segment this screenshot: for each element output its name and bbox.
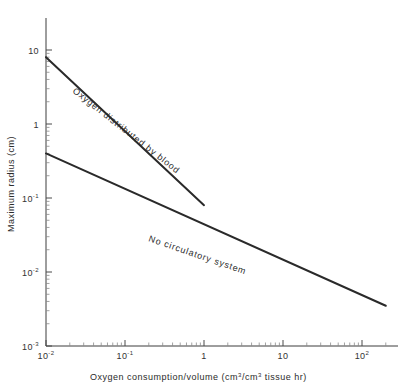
x-tick-label-0: 10-2: [38, 350, 55, 361]
series-label-oxygen-distributed-by-blood: Oxygen distributed by blood: [71, 86, 182, 176]
y-tick-label-1: 1: [34, 120, 39, 130]
series-label-no-circulatory-system: No circulatory system: [147, 233, 247, 276]
y-tick-label-4: 10-3: [22, 341, 39, 352]
x-tick-label-4: 102: [355, 350, 370, 361]
y-tick-label-0: 10: [28, 46, 39, 56]
series-line-1: [46, 153, 386, 305]
x-axis-ticks: [46, 340, 386, 346]
data-series-lines: [46, 57, 386, 306]
x-axis-title-part1: Oxygen consumption/volume (cm: [90, 372, 238, 382]
y-axis-title: Maximum radius (cm): [6, 136, 16, 232]
x-axis-tick-labels: 10-210-1110102: [38, 350, 370, 361]
y-axis-ticks: [46, 50, 52, 346]
y-axis-tick-labels: 10110-110-210-3: [22, 46, 39, 352]
x-tick-label-3: 10: [278, 351, 289, 361]
figure-container: 10110-110-210-3 10-210-1110102 Oxygen di…: [0, 0, 406, 392]
x-axis-title: Oxygen consumption/volume (cm3/cm3 tissu…: [90, 372, 307, 382]
y-tick-label-2: 10-1: [22, 193, 39, 204]
x-axis-title-part3: tissue hr): [262, 372, 307, 382]
y-tick-label-3: 10-2: [22, 267, 39, 278]
x-tick-label-1: 10-1: [117, 350, 134, 361]
x-axis-title-part2: /cm: [242, 372, 258, 382]
x-tick-label-2: 1: [201, 351, 206, 361]
chart-canvas: 10110-110-210-3 10-210-1110102 Oxygen di…: [0, 0, 406, 392]
